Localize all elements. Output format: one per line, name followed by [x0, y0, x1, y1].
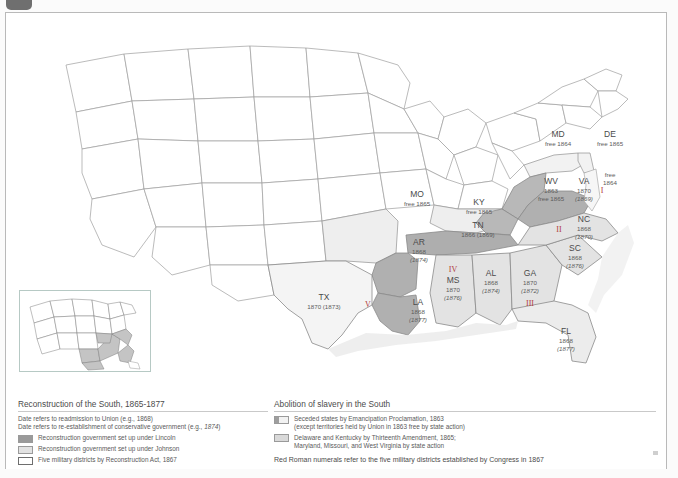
- locator-inset-map[interactable]: [19, 290, 151, 372]
- note-readmission-value: 1868: [137, 415, 151, 422]
- numeral-V: V: [365, 300, 371, 309]
- svg-text:free 1865: free 1865: [538, 195, 565, 202]
- swatch-johnson-icon: [18, 446, 33, 454]
- legend-item-emancipation[interactable]: Seceded states by Emancipation Proclamat…: [274, 415, 656, 431]
- legend-item-districts-label: Five military districts by Reconstructio…: [38, 456, 177, 464]
- note-readmission-suffix: ): [151, 415, 153, 422]
- legend-emancipation-line2: (except territories held by Union in 186…: [294, 423, 465, 430]
- numeral-IV: IV: [449, 265, 458, 274]
- svg-text:MS: MS: [447, 275, 460, 285]
- note-readmission-prefix: Date refers to readmission to Union (e.g…: [18, 415, 137, 422]
- legend-right-title: Abolition of slavery in the South: [274, 399, 656, 412]
- map-legend: Reconstruction of the South, 1865-1877 D…: [6, 399, 666, 469]
- legend-note-conservative: Date refers to re-establishment of conse…: [18, 423, 268, 431]
- legend-thirteenth-line2: Maryland, Missouri, and West Virginia by…: [294, 442, 444, 449]
- svg-text:TX: TX: [319, 292, 330, 302]
- label-DE: DE free 1865: [597, 129, 624, 147]
- svg-text:KY: KY: [473, 197, 485, 207]
- svg-text:free 1865: free 1865: [404, 200, 431, 207]
- swatch-emancipation-icon: [274, 416, 289, 424]
- svg-text:(1876): (1876): [566, 262, 584, 269]
- map-canvas[interactable]: MD free 1864 DE free 1865 WV 1863 free 1…: [6, 13, 666, 398]
- svg-text:DE: DE: [604, 129, 616, 139]
- note-conservative-suffix: ): [218, 423, 220, 430]
- svg-text:1870: 1870: [523, 279, 537, 286]
- legend-item-lincoln-label: Reconstruction government set up under L…: [38, 434, 175, 442]
- legend-column-abolition: Abolition of slavery in the South Secede…: [274, 399, 656, 463]
- swatch-thirteenth-amendment-icon: [274, 434, 289, 442]
- label-eastern-shore-note: free 1864: [603, 171, 617, 186]
- svg-text:1868: 1868: [568, 254, 582, 261]
- swatch-military-district-icon: [18, 457, 33, 465]
- legend-item-johnson[interactable]: Reconstruction government set up under J…: [18, 445, 268, 454]
- numeral-I: I: [601, 186, 604, 195]
- svg-text:(1877): (1877): [409, 316, 427, 323]
- svg-text:(1874): (1874): [482, 287, 500, 294]
- svg-text:GA: GA: [524, 268, 537, 278]
- note-conservative-value: 1874: [204, 423, 218, 430]
- svg-text:(1877): (1877): [557, 345, 575, 352]
- svg-text:(1874): (1874): [410, 256, 428, 263]
- svg-text:VA: VA: [579, 176, 590, 186]
- svg-text:1868: 1868: [484, 279, 498, 286]
- svg-text:free: free: [605, 171, 616, 178]
- svg-text:1864: 1864: [603, 179, 617, 186]
- svg-text:AR: AR: [413, 237, 425, 247]
- svg-text:(1869): (1869): [575, 195, 593, 202]
- svg-text:1866 (1869): 1866 (1869): [461, 231, 494, 238]
- svg-text:MO: MO: [410, 189, 424, 199]
- legend-item-thirteenth-amendment[interactable]: Delaware and Kentucky by Thirteenth Amen…: [274, 434, 656, 450]
- document-frame: MD free 1864 DE free 1865 WV 1863 free 1…: [5, 12, 667, 469]
- svg-text:1868: 1868: [577, 225, 591, 232]
- svg-text:1863: 1863: [544, 187, 558, 194]
- legend-note-readmission: Date refers to readmission to Union (e.g…: [18, 415, 268, 423]
- map-page-root: MD free 1864 DE free 1865 WV 1863 free 1…: [0, 0, 678, 478]
- numeral-III: III: [526, 299, 534, 308]
- state-maryland: [524, 153, 586, 177]
- svg-text:WV: WV: [544, 176, 558, 186]
- legend-left-title: Reconstruction of the South, 1865-1877: [18, 399, 268, 412]
- state-delaware: [578, 153, 594, 173]
- legend-item-districts[interactable]: Five military districts by Reconstructio…: [18, 456, 268, 465]
- legend-item-johnson-label: Reconstruction government set up under J…: [38, 445, 179, 453]
- svg-text:1868: 1868: [412, 248, 426, 255]
- svg-text:NC: NC: [578, 214, 590, 224]
- legend-column-reconstruction: Reconstruction of the South, 1865-1877 D…: [18, 399, 268, 465]
- svg-text:1870: 1870: [446, 286, 460, 293]
- svg-text:free 1864: free 1864: [545, 140, 572, 147]
- svg-text:AL: AL: [486, 268, 497, 278]
- svg-text:FL: FL: [561, 326, 571, 336]
- locator-inset-svg: [20, 291, 150, 371]
- svg-text:1870: 1870: [577, 187, 591, 194]
- svg-text:MD: MD: [551, 129, 564, 139]
- legend-footnote-roman-numerals: Red Roman numerals refer to the five mil…: [274, 456, 656, 463]
- svg-text:1868: 1868: [411, 308, 425, 315]
- state-florida: [512, 301, 596, 363]
- svg-text:(1870): (1870): [575, 233, 593, 240]
- svg-text:1870 (1873): 1870 (1873): [307, 303, 340, 310]
- svg-text:TN: TN: [472, 220, 483, 230]
- gulf-coast-shading: [328, 321, 518, 357]
- legend-emancipation-line1: Seceded states by Emancipation Proclamat…: [294, 415, 444, 422]
- svg-text:SC: SC: [569, 243, 581, 253]
- svg-text:(1872): (1872): [521, 287, 539, 294]
- svg-text:(1876): (1876): [444, 294, 462, 301]
- note-conservative-prefix: Date refers to re-establishment of conse…: [18, 423, 204, 430]
- svg-text:free 1865: free 1865: [466, 208, 493, 215]
- scroll-indicator[interactable]: [653, 451, 658, 455]
- svg-text:LA: LA: [413, 297, 424, 307]
- inset-florida: [128, 361, 140, 369]
- numeral-II: II: [556, 225, 562, 234]
- browser-chrome-stub[interactable]: [6, 0, 32, 10]
- svg-text:free 1865: free 1865: [597, 140, 624, 147]
- svg-text:1868: 1868: [559, 337, 573, 344]
- legend-item-lincoln[interactable]: Reconstruction government set up under L…: [18, 434, 268, 443]
- legend-thirteenth-line1: Delaware and Kentucky by Thirteenth Amen…: [294, 434, 456, 441]
- swatch-lincoln-icon: [18, 435, 33, 443]
